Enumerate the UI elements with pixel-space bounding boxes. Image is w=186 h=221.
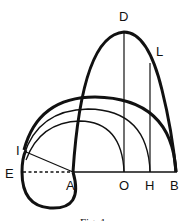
middle-arc-to-h xyxy=(24,109,150,172)
label-a: A xyxy=(66,178,75,193)
label-d: D xyxy=(119,9,128,24)
label-l: L xyxy=(156,44,163,59)
label-b: B xyxy=(170,178,179,193)
figure-caption: Fig. 1 xyxy=(80,216,106,221)
label-h: H xyxy=(145,178,154,193)
label-o: O xyxy=(119,178,129,193)
label-e: E xyxy=(5,166,14,181)
line-ia xyxy=(26,152,73,172)
diagram-figure: D L I E A O H B Fig. 1 xyxy=(0,0,186,221)
label-i: I xyxy=(16,143,20,158)
